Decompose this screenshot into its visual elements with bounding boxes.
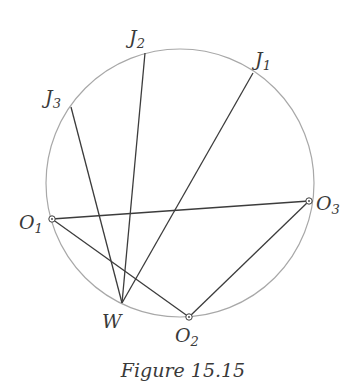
segment-w-j2 [122, 53, 145, 303]
point-o1-marker [49, 216, 55, 222]
point-o2-marker [186, 314, 192, 320]
label-o2: O2 [175, 324, 199, 349]
figure-caption: Figure 15.15 [120, 359, 245, 381]
point-o3-marker [306, 198, 312, 204]
label-o1: O1 [19, 211, 43, 236]
segment-o1-o3 [52, 201, 309, 219]
label-j3: J3 [41, 86, 61, 111]
segment-w-j3 [71, 107, 122, 303]
label-j1: J1 [251, 48, 271, 73]
label-o3: O3 [316, 192, 340, 217]
circle [46, 49, 314, 317]
label-j2: J2 [125, 26, 145, 51]
diagram-canvas: J1 J2 J3 O1 O2 O3 W Figure 15.15 [0, 0, 364, 387]
label-w: W [102, 310, 123, 332]
segment-w-j1 [122, 73, 253, 303]
segment-o1-o2 [52, 219, 189, 317]
